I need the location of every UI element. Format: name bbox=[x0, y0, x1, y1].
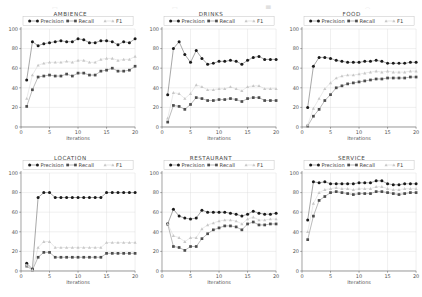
svg-text:15: 15 bbox=[103, 273, 109, 279]
svg-text:80: 80 bbox=[152, 189, 158, 195]
svg-text:20: 20 bbox=[152, 248, 158, 254]
svg-text:Recall: Recall bbox=[79, 18, 94, 24]
svg-text:20: 20 bbox=[273, 129, 279, 135]
svg-text:60: 60 bbox=[12, 209, 18, 215]
svg-text:0: 0 bbox=[19, 273, 22, 279]
svg-text:Precision: Precision bbox=[322, 162, 345, 168]
svg-text:15: 15 bbox=[244, 129, 250, 135]
svg-text:20: 20 bbox=[12, 248, 18, 254]
svg-text:100: 100 bbox=[149, 170, 159, 176]
plot-area: 02040608010005101520IterationsPrecisionR… bbox=[281, 9, 422, 153]
svg-text:60: 60 bbox=[12, 65, 18, 71]
subplot-food: FOOD 02040608010005101520IterationsPreci… bbox=[281, 9, 422, 153]
subplot-location: LOCATION 02040608010005101520IterationsP… bbox=[0, 153, 141, 297]
subplot-ambience: AMBIENCE 02040608010005101520IterationsP… bbox=[0, 9, 141, 153]
svg-text:20: 20 bbox=[12, 104, 18, 110]
svg-text:60: 60 bbox=[293, 209, 299, 215]
svg-text:F1: F1 bbox=[257, 18, 263, 24]
svg-text:5: 5 bbox=[329, 129, 332, 135]
svg-text:80: 80 bbox=[12, 45, 18, 51]
svg-text:60: 60 bbox=[152, 209, 158, 215]
svg-text:F1: F1 bbox=[257, 162, 263, 168]
svg-text:Iterations: Iterations bbox=[207, 135, 231, 141]
figure-root: □ □ █ ○ AMBIENCE 02040608010005101520Ite… bbox=[0, 0, 422, 297]
plot-area: 02040608010005101520IterationsPrecisionR… bbox=[0, 9, 141, 153]
svg-text:60: 60 bbox=[293, 65, 299, 71]
svg-text:Recall: Recall bbox=[79, 162, 94, 168]
svg-text:5: 5 bbox=[48, 129, 51, 135]
svg-text:20: 20 bbox=[132, 129, 138, 135]
svg-text:0: 0 bbox=[301, 129, 304, 135]
svg-text:F1: F1 bbox=[397, 162, 403, 168]
svg-text:5: 5 bbox=[329, 273, 332, 279]
svg-text:100: 100 bbox=[8, 170, 18, 176]
svg-text:20: 20 bbox=[152, 104, 158, 110]
svg-text:0: 0 bbox=[160, 273, 163, 279]
svg-text:0: 0 bbox=[296, 124, 299, 130]
plot-area: 02040608010005101520IterationsPrecisionR… bbox=[281, 153, 422, 297]
svg-text:10: 10 bbox=[216, 129, 222, 135]
clipped-top-text: □ □ █ ○ bbox=[0, 0, 422, 9]
svg-text:100: 100 bbox=[149, 26, 159, 32]
svg-text:15: 15 bbox=[385, 129, 391, 135]
svg-text:0: 0 bbox=[19, 129, 22, 135]
subplot-restaurant: RESTAURANT 02040608010005101520Iteration… bbox=[141, 153, 282, 297]
svg-text:10: 10 bbox=[356, 273, 362, 279]
svg-text:40: 40 bbox=[293, 229, 299, 235]
svg-text:Iterations: Iterations bbox=[66, 279, 90, 285]
svg-text:40: 40 bbox=[12, 229, 18, 235]
svg-text:5: 5 bbox=[189, 129, 192, 135]
svg-text:Recall: Recall bbox=[219, 162, 234, 168]
svg-text:10: 10 bbox=[356, 129, 362, 135]
svg-text:15: 15 bbox=[103, 129, 109, 135]
svg-text:40: 40 bbox=[12, 85, 18, 91]
svg-text:100: 100 bbox=[8, 26, 18, 32]
svg-text:Precision: Precision bbox=[181, 18, 204, 24]
plot-area: 02040608010005101520IterationsPrecisionR… bbox=[141, 9, 282, 153]
svg-text:10: 10 bbox=[75, 273, 81, 279]
svg-text:80: 80 bbox=[152, 45, 158, 51]
svg-text:Iterations: Iterations bbox=[207, 279, 231, 285]
svg-text:5: 5 bbox=[189, 273, 192, 279]
plot-area: 02040608010005101520IterationsPrecisionR… bbox=[0, 153, 141, 297]
svg-text:0: 0 bbox=[301, 273, 304, 279]
svg-text:100: 100 bbox=[290, 26, 300, 32]
svg-text:80: 80 bbox=[12, 189, 18, 195]
svg-text:F1: F1 bbox=[116, 18, 122, 24]
svg-text:20: 20 bbox=[413, 129, 419, 135]
svg-text:Recall: Recall bbox=[360, 18, 375, 24]
svg-text:40: 40 bbox=[152, 85, 158, 91]
subplot-service: SERVICE 02040608010005101520IterationsPr… bbox=[281, 153, 422, 297]
subplot-drinks: DRINKS 02040608010005101520IterationsPre… bbox=[141, 9, 282, 153]
svg-text:20: 20 bbox=[132, 273, 138, 279]
svg-text:20: 20 bbox=[413, 273, 419, 279]
svg-text:0: 0 bbox=[155, 124, 158, 130]
svg-text:5: 5 bbox=[48, 273, 51, 279]
svg-text:20: 20 bbox=[273, 273, 279, 279]
svg-text:0: 0 bbox=[155, 268, 158, 274]
svg-text:Recall: Recall bbox=[219, 18, 234, 24]
svg-text:40: 40 bbox=[293, 85, 299, 91]
svg-text:15: 15 bbox=[244, 273, 250, 279]
svg-text:20: 20 bbox=[293, 104, 299, 110]
svg-text:80: 80 bbox=[293, 189, 299, 195]
svg-text:10: 10 bbox=[75, 129, 81, 135]
svg-text:Recall: Recall bbox=[360, 162, 375, 168]
svg-text:100: 100 bbox=[290, 170, 300, 176]
svg-text:Iterations: Iterations bbox=[66, 135, 90, 141]
svg-text:20: 20 bbox=[293, 248, 299, 254]
svg-text:60: 60 bbox=[152, 65, 158, 71]
svg-text:Precision: Precision bbox=[41, 18, 64, 24]
svg-text:Iterations: Iterations bbox=[347, 279, 371, 285]
svg-text:F1: F1 bbox=[397, 18, 403, 24]
svg-text:80: 80 bbox=[293, 45, 299, 51]
svg-text:0: 0 bbox=[15, 268, 18, 274]
svg-text:0: 0 bbox=[15, 124, 18, 130]
plot-area: 02040608010005101520IterationsPrecisionR… bbox=[141, 153, 282, 297]
subplot-grid: AMBIENCE 02040608010005101520IterationsP… bbox=[0, 9, 422, 297]
svg-text:15: 15 bbox=[385, 273, 391, 279]
svg-text:F1: F1 bbox=[116, 162, 122, 168]
svg-text:10: 10 bbox=[216, 273, 222, 279]
svg-text:40: 40 bbox=[152, 229, 158, 235]
svg-text:Precision: Precision bbox=[41, 162, 64, 168]
